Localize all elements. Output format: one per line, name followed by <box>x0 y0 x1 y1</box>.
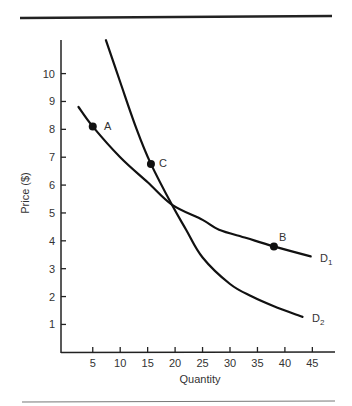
curve-label-d2: D2 <box>312 312 325 327</box>
x-tick-label: 30 <box>224 357 236 369</box>
y-tick-label: 8 <box>49 123 55 135</box>
y-tick-label: 9 <box>49 95 55 107</box>
x-tick-label: 40 <box>279 357 291 369</box>
y-axis-title: Price ($) <box>19 172 31 214</box>
x-axis-title: Quantity <box>180 373 221 385</box>
x-axis <box>61 352 335 353</box>
y-tick-label: 4 <box>49 235 55 247</box>
top-rule <box>20 16 332 18</box>
x-tick-label: 25 <box>196 357 208 369</box>
y-tick-label: 5 <box>49 207 55 219</box>
y-tick-label: 7 <box>49 151 55 163</box>
point-a-label: A <box>104 120 112 132</box>
x-tick-label: 35 <box>251 357 263 369</box>
point-a-marker <box>89 123 97 131</box>
y-ticks: 12345678910 <box>43 68 66 331</box>
point-b-marker <box>270 242 278 250</box>
y-tick-label: 1 <box>49 318 55 330</box>
demand-curves-figure: 12345678910 51015202530354045 Price ($) … <box>0 0 352 406</box>
bottom-rule <box>22 401 335 402</box>
y-tick-label: 3 <box>49 263 55 275</box>
x-ticks: 51015202530354045 <box>90 347 319 369</box>
demand-curve-d1 <box>79 107 311 256</box>
x-tick-label: 10 <box>114 357 126 369</box>
x-tick-label: 20 <box>169 357 181 369</box>
point-c-label: C <box>159 157 167 169</box>
x-tick-label: 5 <box>90 357 96 369</box>
y-tick-label: 10 <box>43 68 55 80</box>
y-tick-label: 6 <box>49 179 55 191</box>
curve-label-d1: D1 <box>320 252 333 267</box>
point-b-label: B <box>279 231 286 243</box>
y-tick-label: 2 <box>49 291 55 303</box>
point-c-marker <box>147 160 155 168</box>
x-tick-label: 45 <box>306 357 318 369</box>
axes: 12345678910 51015202530354045 <box>43 40 335 369</box>
demand-curve-d2 <box>106 40 303 317</box>
x-tick-label: 15 <box>142 357 154 369</box>
